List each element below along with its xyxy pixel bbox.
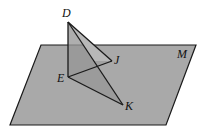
label-plane-m: M xyxy=(176,47,188,61)
label-j: J xyxy=(114,53,120,67)
label-d: D xyxy=(61,6,71,20)
label-k: K xyxy=(124,99,134,113)
diagram-canvas: D E J K M xyxy=(0,0,209,133)
label-e: E xyxy=(56,71,65,85)
